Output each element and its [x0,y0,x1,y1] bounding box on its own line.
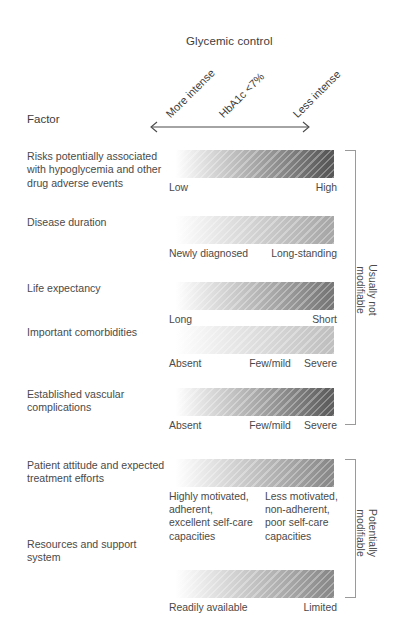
row-factor-label: Life expectancy [27,282,167,295]
gradient-bar [169,570,334,598]
axis-label-less-intense: Less intense [291,68,343,120]
gradient-bar [169,459,334,487]
gradient-bar [169,282,334,310]
scale-label-right: Limited [265,601,337,614]
row-factor-label: Important comorbidities [27,326,167,339]
bracket-label-potentially-modifiable: Potentially modifiable [354,498,378,568]
scale-label-right: Short [265,313,337,326]
scale-label-right: Severe [265,419,337,432]
chart-title: Glycemic control [186,35,273,47]
gradient-bar [169,150,334,178]
row-factor-label: Disease duration [27,216,167,229]
row-factor-label: Risks potentially associated with hypogl… [27,150,167,190]
factor-column-header: Factor [27,113,60,125]
bracket-label-usually-not-modifiable: Usually not modifiable [354,255,378,325]
scale-label-right: Less motivated, non-adherent, poor self-… [265,490,343,543]
glycemic-control-figure: Glycemic control More intense HbA1c <7% … [0,0,404,633]
axis-label-more-intense: More intense [164,67,217,120]
gradient-bar [169,388,334,416]
scale-label-right: High [265,181,337,194]
scale-label-right: Severe [265,357,337,370]
gradient-bar [169,326,334,354]
intensity-axis-arrow [146,118,314,136]
row-factor-label: Established vascular complications [27,388,167,415]
axis-label-hba1c: HbA1c <7% [217,70,267,120]
scale-label-left: Low [169,181,265,194]
gradient-bar [169,216,334,244]
scale-label-left: Long [169,313,265,326]
row-factor-label: Resources and support system [27,538,167,565]
scale-label-left: Highly motivated, adherent, excellent se… [169,490,255,543]
scale-label-left: Readily available [169,601,279,614]
row-factor-label: Patient attitude and expected treatment … [27,459,167,486]
scale-label-right: Long-standing [249,247,337,260]
